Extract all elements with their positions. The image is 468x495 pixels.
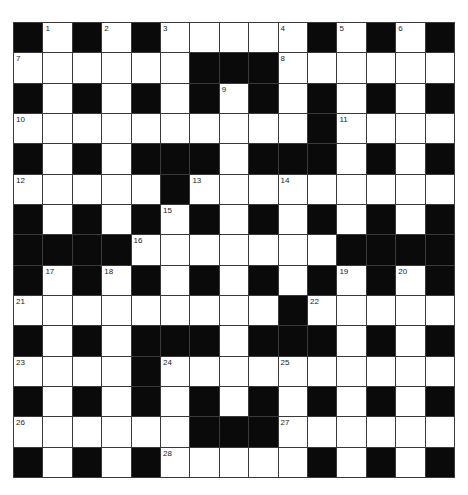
answer-cell[interactable] xyxy=(220,175,248,204)
answer-cell[interactable] xyxy=(102,205,130,234)
answer-cell[interactable] xyxy=(43,387,71,416)
answer-cell[interactable] xyxy=(337,144,365,173)
answer-cell[interactable] xyxy=(220,326,248,355)
answer-cell[interactable] xyxy=(308,417,336,446)
answer-cell[interactable] xyxy=(161,266,189,295)
answer-cell[interactable] xyxy=(190,114,218,143)
answer-cell[interactable] xyxy=(396,53,424,82)
answer-cell[interactable] xyxy=(308,175,336,204)
answer-cell[interactable] xyxy=(396,114,424,143)
answer-cell[interactable] xyxy=(220,114,248,143)
answer-cell[interactable]: 5 xyxy=(337,23,365,52)
answer-cell[interactable]: 25 xyxy=(279,357,307,386)
answer-cell[interactable] xyxy=(337,326,365,355)
answer-cell[interactable] xyxy=(43,84,71,113)
answer-cell[interactable] xyxy=(396,357,424,386)
answer-cell[interactable] xyxy=(426,114,454,143)
answer-cell[interactable] xyxy=(396,175,424,204)
answer-cell[interactable] xyxy=(249,235,277,264)
answer-cell[interactable] xyxy=(249,23,277,52)
answer-cell[interactable] xyxy=(279,114,307,143)
answer-cell[interactable] xyxy=(396,296,424,325)
answer-cell[interactable] xyxy=(132,296,160,325)
answer-cell[interactable]: 8 xyxy=(279,53,307,82)
answer-cell[interactable] xyxy=(43,53,71,82)
answer-cell[interactable] xyxy=(43,296,71,325)
answer-cell[interactable] xyxy=(73,114,101,143)
answer-cell[interactable]: 17 xyxy=(43,266,71,295)
answer-cell[interactable] xyxy=(43,175,71,204)
answer-cell[interactable] xyxy=(190,448,218,477)
answer-cell[interactable] xyxy=(279,235,307,264)
answer-cell[interactable]: 2 xyxy=(102,23,130,52)
answer-cell[interactable]: 12 xyxy=(14,175,42,204)
answer-cell[interactable] xyxy=(396,84,424,113)
answer-cell[interactable] xyxy=(367,114,395,143)
answer-cell[interactable] xyxy=(220,144,248,173)
answer-cell[interactable] xyxy=(337,357,365,386)
answer-cell[interactable] xyxy=(43,448,71,477)
answer-cell[interactable] xyxy=(190,23,218,52)
answer-cell[interactable] xyxy=(161,235,189,264)
answer-cell[interactable] xyxy=(279,387,307,416)
answer-cell[interactable] xyxy=(43,326,71,355)
answer-cell[interactable] xyxy=(102,114,130,143)
answer-cell[interactable]: 11 xyxy=(337,114,365,143)
answer-cell[interactable] xyxy=(249,448,277,477)
answer-cell[interactable] xyxy=(367,357,395,386)
answer-cell[interactable] xyxy=(337,84,365,113)
answer-cell[interactable] xyxy=(220,296,248,325)
answer-cell[interactable] xyxy=(190,357,218,386)
answer-cell[interactable]: 15 xyxy=(161,205,189,234)
answer-cell[interactable]: 4 xyxy=(279,23,307,52)
answer-cell[interactable] xyxy=(190,296,218,325)
answer-cell[interactable] xyxy=(73,357,101,386)
answer-cell[interactable] xyxy=(132,175,160,204)
answer-cell[interactable] xyxy=(337,448,365,477)
answer-cell[interactable] xyxy=(426,53,454,82)
answer-cell[interactable] xyxy=(161,114,189,143)
answer-cell[interactable] xyxy=(161,417,189,446)
answer-cell[interactable] xyxy=(161,84,189,113)
answer-cell[interactable]: 13 xyxy=(190,175,218,204)
answer-cell[interactable] xyxy=(337,175,365,204)
answer-cell[interactable] xyxy=(102,387,130,416)
answer-cell[interactable] xyxy=(396,448,424,477)
answer-cell[interactable]: 26 xyxy=(14,417,42,446)
answer-cell[interactable] xyxy=(73,296,101,325)
answer-cell[interactable] xyxy=(426,296,454,325)
answer-cell[interactable] xyxy=(161,296,189,325)
answer-cell[interactable] xyxy=(249,357,277,386)
answer-cell[interactable] xyxy=(220,357,248,386)
answer-cell[interactable]: 19 xyxy=(337,266,365,295)
answer-cell[interactable]: 21 xyxy=(14,296,42,325)
answer-cell[interactable] xyxy=(102,417,130,446)
answer-cell[interactable] xyxy=(102,357,130,386)
answer-cell[interactable]: 16 xyxy=(132,235,160,264)
answer-cell[interactable] xyxy=(367,417,395,446)
answer-cell[interactable] xyxy=(43,114,71,143)
answer-cell[interactable] xyxy=(220,23,248,52)
answer-cell[interactable]: 7 xyxy=(14,53,42,82)
answer-cell[interactable] xyxy=(279,84,307,113)
answer-cell[interactable] xyxy=(279,448,307,477)
answer-cell[interactable]: 18 xyxy=(102,266,130,295)
answer-cell[interactable] xyxy=(102,326,130,355)
answer-cell[interactable] xyxy=(308,357,336,386)
answer-cell[interactable] xyxy=(73,417,101,446)
answer-cell[interactable] xyxy=(337,417,365,446)
answer-cell[interactable] xyxy=(249,114,277,143)
answer-cell[interactable] xyxy=(279,205,307,234)
answer-cell[interactable] xyxy=(249,175,277,204)
answer-cell[interactable] xyxy=(73,175,101,204)
answer-cell[interactable]: 10 xyxy=(14,114,42,143)
answer-cell[interactable] xyxy=(279,266,307,295)
answer-cell[interactable] xyxy=(132,53,160,82)
answer-cell[interactable] xyxy=(308,53,336,82)
answer-cell[interactable] xyxy=(43,357,71,386)
answer-cell[interactable] xyxy=(426,357,454,386)
answer-cell[interactable] xyxy=(367,175,395,204)
answer-cell[interactable]: 28 xyxy=(161,448,189,477)
answer-cell[interactable] xyxy=(249,296,277,325)
answer-cell[interactable] xyxy=(43,205,71,234)
